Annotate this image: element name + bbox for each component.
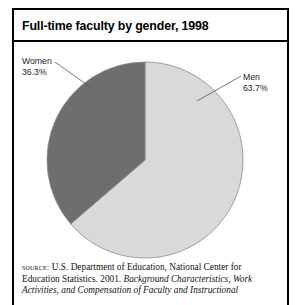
pie-chart (0, 0, 300, 305)
source-line-2-roman: Education Statistics. 2001. (22, 274, 123, 284)
source-note: source: U.S. Department of Education, Na… (22, 262, 280, 297)
figure-container: Full-time faculty by gender, 1998 Women … (0, 0, 300, 305)
source-line-3: Activities, and Compensation of Faculty … (22, 285, 280, 297)
source-line-2-italic: Background Characteristics, Work (123, 274, 252, 284)
source-line-2: Education Statistics. 2001. Background C… (22, 274, 280, 286)
pie-chart-svg (0, 0, 300, 305)
source-prefix: source: (22, 262, 49, 272)
callout-women-name: Women (22, 56, 52, 67)
callout-women: Women 36.3% (22, 56, 52, 77)
callout-men-name: Men (243, 72, 268, 83)
leader-line-women (55, 62, 93, 89)
source-line-1: source: U.S. Department of Education, Na… (22, 262, 280, 274)
source-line-1-text: U.S. Department of Education, National C… (49, 262, 241, 272)
callout-women-value: 36.3% (22, 67, 52, 78)
callout-men-value: 63.7% (243, 83, 268, 94)
callout-men: Men 63.7% (243, 72, 268, 93)
